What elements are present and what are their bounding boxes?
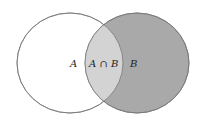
intersection-label: A ∩ B xyxy=(88,58,118,69)
venn-diagram: A A ∩ B B xyxy=(0,0,202,122)
set-a-label: A xyxy=(69,58,77,69)
set-b-label: B xyxy=(129,58,137,69)
